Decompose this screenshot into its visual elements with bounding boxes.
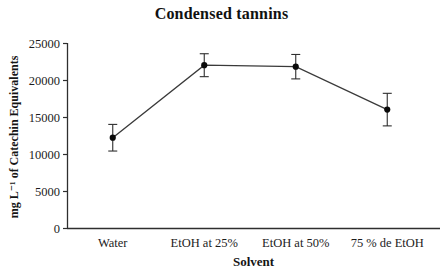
x-category-label: EtOH at 50% <box>262 236 329 250</box>
plot-area: 0500010000150002000025000WaterEtOH at 25… <box>0 0 443 279</box>
y-tick-label: 10000 <box>29 148 60 162</box>
data-point-marker <box>110 135 116 141</box>
data-point-marker <box>201 62 207 68</box>
y-tick-label: 0 <box>54 222 60 236</box>
y-tick-label: 15000 <box>29 111 60 125</box>
x-axis-label: Solvent <box>67 254 440 270</box>
y-tick-label: 5000 <box>35 185 60 199</box>
x-category-label: EtOH at 25% <box>171 236 238 250</box>
series-line <box>113 65 388 138</box>
x-category-label: Water <box>98 236 128 250</box>
data-point-marker <box>384 107 390 113</box>
y-tick-label: 20000 <box>29 74 60 88</box>
data-point-marker <box>293 64 299 70</box>
y-tick-label: 25000 <box>29 37 60 51</box>
chart-figure: Condensed tannins mg L⁻¹ of Catechin Equ… <box>0 0 443 279</box>
x-category-label: 75 % de EtOH <box>351 236 424 250</box>
